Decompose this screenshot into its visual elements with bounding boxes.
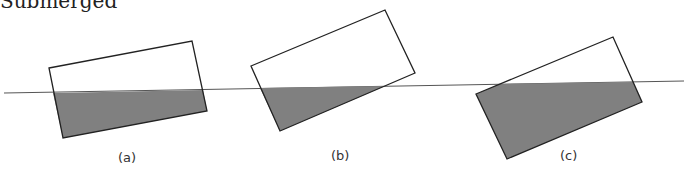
floating-block-b xyxy=(251,10,415,131)
floating-block-c xyxy=(476,37,642,159)
panel-label-a: (a) xyxy=(118,150,136,165)
submerged-region xyxy=(53,90,207,138)
submerged-region xyxy=(260,86,385,131)
panel-label-b: (b) xyxy=(331,148,349,163)
panel-label-c: (c) xyxy=(560,148,577,163)
